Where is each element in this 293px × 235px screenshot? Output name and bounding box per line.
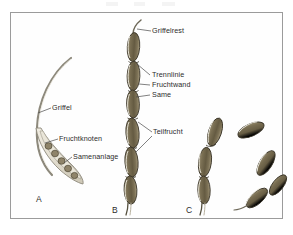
panel-letter-a: A (36, 195, 42, 204)
panel-c-group (197, 116, 290, 215)
label-griffelrest: Griffelrest (152, 27, 184, 34)
leader-fruchtwand (139, 84, 150, 85)
leader-teilfrucht-upper (138, 122, 152, 132)
pedicel-stalk (200, 203, 202, 215)
label-fruchtknoten: Fruchtknoten (59, 135, 102, 142)
mericarp-detached (236, 119, 267, 142)
mericarp-detached (234, 185, 271, 211)
pedicel-stalk-highlight (130, 203, 131, 215)
ovule (45, 143, 52, 150)
panel-a-group (36, 58, 83, 184)
ovule (52, 150, 59, 157)
mericarp-attached (197, 147, 213, 178)
label-trennlinie: Trennlinie (152, 71, 184, 78)
ovule (71, 172, 78, 178)
panel-letter-c: C (186, 206, 192, 215)
mericarp-tail (234, 205, 248, 210)
leader-griffelrest (137, 29, 151, 31)
panel-letter-b: B (112, 206, 118, 215)
panel-b-group (123, 20, 152, 215)
label-fruchtwand: Fruchtwand (152, 81, 191, 88)
pedicel-stalk (126, 203, 128, 215)
botanical-illustration (0, 0, 293, 235)
figure-root: Griffelrest Trennlinie Fruchtwand Same T… (0, 0, 293, 235)
mericarp-attached (204, 116, 225, 148)
ovule (58, 158, 65, 165)
loment-segment (126, 90, 140, 118)
label-same: Same (152, 91, 171, 98)
label-samenanlage: Samenanlage (73, 153, 118, 160)
mericarp-attached (197, 176, 210, 204)
loment-segment (123, 175, 137, 204)
loment-segment (125, 118, 140, 149)
pedicel-stalk-highlight (204, 203, 205, 215)
loment-segment (126, 32, 140, 62)
style-remnant-griffelrest-shape (133, 20, 141, 34)
mericarp-detached (253, 148, 278, 178)
label-griffel: Griffel (52, 104, 72, 111)
label-teilfrucht: Teilfrucht (153, 128, 183, 135)
ovule (65, 165, 72, 172)
mericarp-detached (266, 172, 290, 198)
